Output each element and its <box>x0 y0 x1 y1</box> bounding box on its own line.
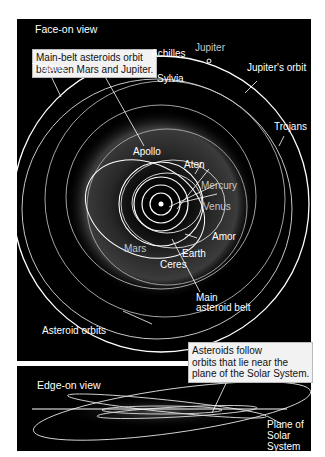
label-aten: Aten <box>184 159 205 170</box>
label-trojans-left: Trojans <box>32 62 65 73</box>
orbit-plane-callout: Asteroids follow orbits that lie near th… <box>188 342 313 383</box>
plane-label-line: Plane of <box>267 419 304 430</box>
label-mars: Mars <box>124 243 146 254</box>
label-amor: Amor <box>212 231 236 242</box>
label-jupiters-orbit: Jupiter's orbit <box>247 62 306 73</box>
label-trojans-right: Trojans <box>274 121 307 132</box>
face-on-view-panel: Face-on view Main-belt asteroids orbit b… <box>17 19 311 361</box>
callout-line: Asteroids follow <box>192 345 309 357</box>
face-on-title: Face-on view <box>35 23 97 35</box>
label-sylvia: Sylvia <box>157 73 184 84</box>
label-venus: Venus <box>203 201 231 212</box>
label-jupiter: Jupiter <box>195 42 225 53</box>
sun <box>159 202 164 207</box>
label-ceres: Ceres <box>160 259 187 270</box>
jupiter-planet <box>207 59 211 63</box>
label-apollo: Apollo <box>133 146 161 157</box>
plane-label-line: Solar <box>267 430 304 441</box>
label-mercury: Mercury <box>201 180 237 191</box>
label-achilles: Achilles <box>151 48 185 59</box>
label-asteroid-orbits: Asteroid orbits <box>42 325 106 336</box>
plane-label-line: System <box>267 441 304 452</box>
callout-line: orbits that lie near the <box>192 357 309 369</box>
label-earth: Earth <box>182 248 206 259</box>
edge-on-title: Edge-on view <box>37 379 101 391</box>
label-main-belt-2: asteroid belt <box>196 302 250 313</box>
label-plane-of-solar-system: Plane of Solar System <box>267 419 304 452</box>
callout-line: plane of the Solar System. <box>192 368 309 380</box>
